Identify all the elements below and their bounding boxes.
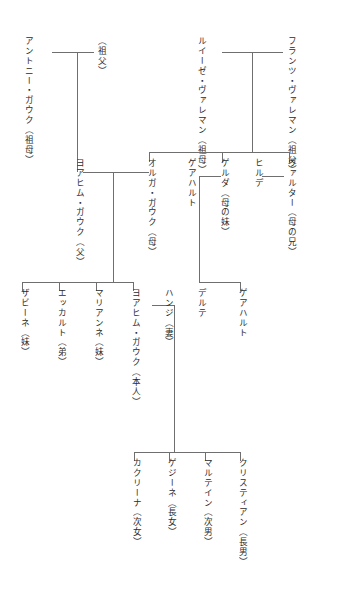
marriage-bar-walter-hilde <box>262 176 284 177</box>
person-sister-sabine: ザビーネ（妹） <box>19 288 28 357</box>
person-self: ヨアヒム・ガウク（本人） <box>130 288 139 407</box>
person-uncle-walter: ヴァルター（母の兄） <box>286 158 295 257</box>
person-paternal-grandmother: アントニー・ガウク（祖母） <box>23 36 32 165</box>
person-sister-marianne: マリアンネ（妹） <box>93 288 102 367</box>
marriage-bar-paternal-grandparents <box>52 52 94 53</box>
person-child-christian: クリスティアン（長男） <box>237 458 246 567</box>
person-brother-eckart: エッカルト（弟） <box>56 288 65 367</box>
person-aunt-hilde: ヒルデ <box>253 158 262 188</box>
descent-line-maternal-grandparents <box>252 52 253 152</box>
sibling-bar-self-and-siblings <box>22 282 133 283</box>
descent-line-gerda-gerhart <box>199 176 200 282</box>
person-cousin-dorte: デルテ <box>196 288 205 318</box>
sibling-bar-maternal-children <box>149 152 290 153</box>
person-child-martin: マルテイン（次男） <box>202 458 211 547</box>
person-aunt-gerda: ゲルダ（母の妹） <box>219 158 228 237</box>
person-cousin-gerhart: ゲアハルト <box>237 288 246 338</box>
person-child-katharina: カクリーナ（次女） <box>131 458 140 547</box>
person-maternal-grandmother: ルイーゼ・ヴァレマン（祖母） <box>196 36 205 175</box>
person-gerhart-senior: ゲアハルト <box>186 158 195 208</box>
descent-line-paternal-grandparents <box>77 52 78 172</box>
descent-line-self-wife <box>174 305 175 452</box>
sibling-bar-children <box>134 452 240 453</box>
family-tree-diagram: （祖父） アントニー・ガウク（祖母） フランツ・ヴァレマン（祖父） ルイーゼ・ヴ… <box>0 0 337 593</box>
sibling-bar-cousins <box>199 282 240 283</box>
person-child-gesine: ゲジーネ（長女） <box>166 458 175 537</box>
person-wife-hansi: ハンジ（妻） <box>163 288 172 347</box>
person-father: ヨアヒム・ガウク（父） <box>74 158 83 267</box>
marriage-bar-gerda-gerhart <box>199 176 221 177</box>
person-maternal-grandfather: フランツ・ヴァレマン（祖父） <box>286 36 295 175</box>
marriage-bar-parents <box>83 172 149 173</box>
descent-line-parents <box>113 172 114 282</box>
person-paternal-grandfather: （祖父） <box>96 36 105 76</box>
